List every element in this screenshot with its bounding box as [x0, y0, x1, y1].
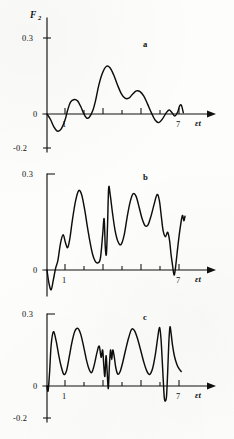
panel-b-x-axis-title: εt	[195, 274, 202, 284]
panel-b-letter: b	[143, 172, 148, 182]
panel-c-curve	[47, 327, 181, 401]
panel-a-ytick-label-bottom: -0.2	[13, 144, 27, 153]
panel-b-ytick-label-top: 0.3	[22, 170, 33, 179]
panel-c-x-axis-title: εt	[195, 390, 202, 400]
panel-c-x-axis-arrow	[207, 383, 216, 390]
panel-c-ytick-label-bottom: -0.2	[13, 414, 27, 423]
y-axis-label-subscript: 2	[37, 14, 42, 21]
panel-a-x-axis-title: εt	[195, 118, 202, 128]
panel-a-xtick-label-last: 7	[176, 120, 180, 129]
panel-b: 0.3 0 1 7 εt b	[0, 160, 234, 300]
panel-c-ytick-label-top: 0.3	[22, 310, 33, 319]
panel-b-curve	[47, 186, 185, 290]
panel-b-ytick-label-zero: 0	[33, 266, 37, 275]
panel-b-xtick-label-first: 1	[62, 276, 66, 285]
panel-c-plot: 0.3 0 -0.2 1 7 εt c	[0, 300, 234, 439]
panel-a-letter: a	[143, 39, 148, 49]
panel-c-ytick-label-zero: 0	[33, 382, 37, 391]
panel-b-plot: 0.3 0 1 7 εt b	[0, 160, 234, 300]
panel-a-plot: F 2 0.3 0 -0.2 1 7 εt a	[0, 0, 234, 160]
panel-c-xtick-label-first: 1	[62, 392, 66, 401]
panel-a-x-axis-arrow	[207, 111, 216, 118]
panel-a-ytick-label-top: 0.3	[22, 34, 33, 43]
panel-a-curve	[47, 66, 183, 131]
panel-c-xtick-label-last: 7	[176, 392, 180, 401]
panel-a-ytick-label-zero: 0	[33, 110, 37, 119]
panel-b-x-axis-arrow	[207, 267, 216, 274]
panel-b-xtick-label-last: 7	[176, 276, 180, 285]
y-axis-label: F	[29, 10, 37, 20]
figure-container: F 2 0.3 0 -0.2 1 7 εt a	[0, 0, 234, 439]
panel-c: 0.3 0 -0.2 1 7 εt c	[0, 300, 234, 439]
panel-a: F 2 0.3 0 -0.2 1 7 εt a	[0, 0, 234, 160]
panel-c-letter: c	[143, 312, 147, 322]
